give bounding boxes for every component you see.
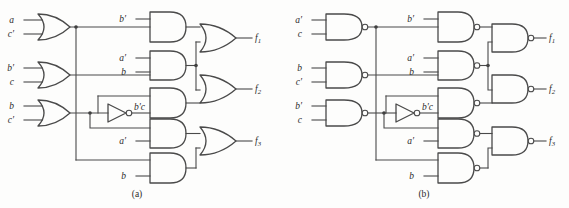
input-label-b-aprime-1: a′ bbox=[295, 15, 303, 25]
nand-gate-b-f1[interactable] bbox=[492, 24, 534, 52]
nand-gate-b-f3[interactable] bbox=[492, 127, 534, 155]
input-label-b-bprime-2: b′ bbox=[407, 14, 415, 24]
intermediate-label-b-bprimec: b'c bbox=[422, 102, 434, 112]
or-gate-a1[interactable] bbox=[38, 14, 70, 40]
output-label-a-f3: f3 bbox=[255, 136, 262, 147]
output-label-b-f3: f3 bbox=[549, 136, 556, 147]
nand-gate-b-l2-5[interactable] bbox=[438, 153, 480, 183]
nand-gate-b1[interactable] bbox=[326, 14, 368, 40]
input-label-a-bprime-2: b′ bbox=[119, 14, 127, 24]
input-label-b-aprime-2: a′ bbox=[407, 53, 415, 63]
and-gate-a4[interactable] bbox=[150, 119, 186, 148]
not-gate-a[interactable] bbox=[108, 104, 132, 122]
circuit-b: a′ c b c′ b′ c b′ a′ b a′ b b'c f1 f2 f3… bbox=[295, 12, 555, 200]
input-label-a-cprime-1: c′ bbox=[8, 29, 15, 39]
input-label-b-c-2: c bbox=[298, 115, 303, 125]
caption-b: (b) bbox=[418, 189, 429, 200]
and-gate-a5[interactable] bbox=[150, 153, 186, 183]
nand-gate-b-l2-1[interactable] bbox=[438, 12, 480, 42]
input-label-a-cprime-2: c′ bbox=[8, 115, 15, 125]
and-gate-a1[interactable] bbox=[150, 12, 186, 42]
or-gate-a-f3[interactable] bbox=[200, 127, 236, 155]
nand-gate-b-f2[interactable] bbox=[492, 75, 534, 103]
or-gate-a-f2[interactable] bbox=[200, 75, 236, 103]
wire-a-g3-down bbox=[90, 113, 150, 128]
input-label-a-aprime-1: a′ bbox=[119, 53, 127, 63]
output-label-a-f2: f2 bbox=[255, 84, 262, 95]
input-label-a-aprime-2: a′ bbox=[119, 136, 127, 146]
and-gate-a2[interactable] bbox=[150, 51, 186, 80]
nand-gate-b2[interactable] bbox=[326, 62, 368, 88]
or-gate-a2[interactable] bbox=[38, 62, 70, 88]
intermediate-label-a-bprimec: b'c bbox=[134, 102, 146, 112]
and-gate-a3[interactable] bbox=[150, 88, 186, 118]
input-label-a-b-3: b bbox=[121, 171, 126, 181]
input-label-b-bprime-1: b′ bbox=[295, 101, 303, 111]
input-label-b-b-3: b bbox=[409, 171, 414, 181]
input-label-a-b-1: b bbox=[9, 101, 14, 111]
input-label-b-aprime-3: a′ bbox=[407, 136, 415, 146]
input-label-a-a: a bbox=[9, 15, 14, 25]
nand-gate-b-l2-3[interactable] bbox=[438, 88, 480, 118]
output-label-b-f1: f1 bbox=[549, 33, 555, 44]
not-gate-b[interactable] bbox=[396, 104, 420, 122]
output-label-b-f2: f2 bbox=[549, 84, 556, 95]
nand-gate-b-l2-2[interactable] bbox=[438, 51, 480, 80]
input-label-b-c-1: c bbox=[298, 29, 303, 39]
input-label-a-bprime-1: b′ bbox=[7, 63, 15, 73]
input-label-a-c-1: c bbox=[10, 77, 15, 87]
figure-root: a c′ b′ c b c′ b′ a′ b a′ b b'c f1 f2 f3… bbox=[0, 0, 569, 208]
caption-a: (a) bbox=[132, 189, 143, 200]
input-label-a-b-2: b bbox=[121, 67, 126, 77]
nand-gate-b-l2-4[interactable] bbox=[438, 119, 480, 148]
logic-circuit-figure: a c′ b′ c b c′ b′ a′ b a′ b b'c f1 f2 f3… bbox=[0, 0, 569, 208]
circuit-a: a c′ b′ c b c′ b′ a′ b a′ b b'c f1 f2 f3… bbox=[7, 12, 261, 200]
output-label-a-f1: f1 bbox=[255, 33, 261, 44]
input-label-b-b-1: b bbox=[297, 63, 302, 73]
or-gate-a3[interactable] bbox=[38, 100, 70, 126]
input-label-b-b-2: b bbox=[409, 67, 414, 77]
input-label-b-cprime-1: c′ bbox=[296, 77, 303, 87]
or-gate-a-f1[interactable] bbox=[200, 24, 236, 52]
wire-b-g3-down bbox=[384, 113, 438, 128]
nand-gate-b3[interactable] bbox=[326, 100, 368, 126]
